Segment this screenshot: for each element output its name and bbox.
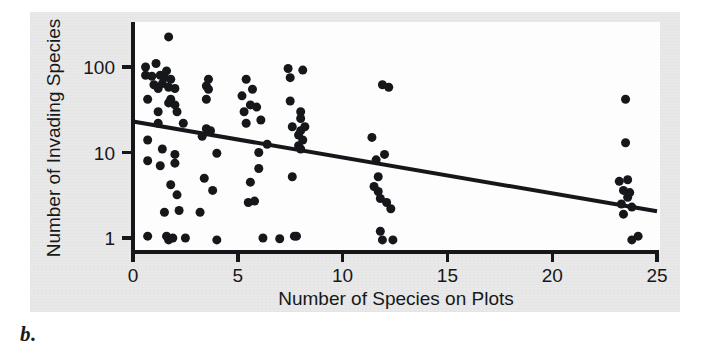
data-point bbox=[286, 97, 295, 106]
data-point bbox=[388, 235, 397, 244]
data-point bbox=[181, 234, 190, 243]
data-point bbox=[288, 172, 297, 181]
data-point bbox=[141, 63, 150, 72]
data-point bbox=[250, 197, 259, 206]
data-point bbox=[367, 133, 376, 142]
data-point bbox=[286, 73, 295, 82]
data-point bbox=[173, 190, 182, 199]
data-point bbox=[625, 188, 634, 197]
y-tick-label: 1 bbox=[104, 228, 115, 249]
data-point bbox=[143, 136, 152, 145]
y-axis-tick-labels: 110100 bbox=[83, 57, 115, 249]
data-point bbox=[296, 144, 305, 153]
figure-panel: 0510152025 110100 Number of Species on P… bbox=[0, 0, 707, 358]
data-point bbox=[204, 75, 213, 84]
data-point bbox=[179, 119, 188, 128]
data-point bbox=[254, 148, 263, 157]
panel-letter-label: b. bbox=[20, 322, 37, 347]
data-point bbox=[627, 203, 636, 212]
data-point bbox=[374, 172, 383, 181]
y-tick-label: 100 bbox=[83, 57, 115, 78]
data-point bbox=[246, 178, 255, 187]
data-point bbox=[170, 159, 179, 168]
data-point bbox=[162, 66, 171, 75]
data-point bbox=[154, 107, 163, 116]
data-point bbox=[376, 227, 385, 236]
data-point bbox=[386, 204, 395, 213]
data-point bbox=[166, 180, 175, 189]
data-point bbox=[384, 83, 393, 92]
data-point bbox=[300, 122, 309, 131]
x-axis-tick-labels: 0510152025 bbox=[128, 265, 668, 286]
data-point bbox=[252, 103, 261, 112]
data-point bbox=[288, 122, 297, 131]
data-point bbox=[380, 150, 389, 159]
data-point bbox=[623, 175, 632, 184]
data-point bbox=[240, 107, 249, 116]
data-point bbox=[196, 208, 205, 217]
data-point bbox=[170, 150, 179, 159]
data-point bbox=[160, 208, 169, 217]
data-point bbox=[263, 140, 272, 149]
axes-layer bbox=[122, 22, 659, 262]
data-point bbox=[202, 95, 211, 104]
data-points-layer bbox=[141, 32, 643, 244]
data-point bbox=[143, 232, 152, 241]
data-point bbox=[152, 59, 161, 68]
data-point bbox=[154, 119, 163, 128]
scatter-chart: 0510152025 110100 Number of Species on P… bbox=[0, 0, 707, 358]
x-tick-label: 0 bbox=[128, 265, 139, 286]
data-point bbox=[158, 144, 167, 153]
data-point bbox=[621, 138, 630, 147]
data-point bbox=[166, 75, 175, 84]
data-point bbox=[378, 235, 387, 244]
data-point bbox=[204, 85, 213, 94]
x-tick-label: 5 bbox=[233, 265, 244, 286]
data-point bbox=[298, 136, 307, 145]
y-tick-label: 10 bbox=[94, 143, 115, 164]
data-point bbox=[237, 91, 246, 100]
data-point bbox=[621, 95, 630, 104]
data-point bbox=[254, 164, 263, 173]
data-point bbox=[175, 206, 184, 215]
data-point bbox=[200, 174, 209, 183]
x-axis-title: Number of Species on Plots bbox=[278, 288, 514, 309]
data-point bbox=[634, 232, 643, 241]
data-point bbox=[275, 234, 284, 243]
data-point bbox=[619, 210, 628, 219]
x-tick-label: 25 bbox=[646, 265, 667, 286]
data-point bbox=[248, 85, 257, 94]
data-point bbox=[168, 234, 177, 243]
data-point bbox=[147, 72, 156, 81]
data-point bbox=[256, 115, 265, 124]
data-point bbox=[617, 199, 626, 208]
x-tick-label: 20 bbox=[542, 265, 563, 286]
data-point bbox=[206, 126, 215, 135]
x-tick-label: 15 bbox=[437, 265, 458, 286]
data-point bbox=[173, 107, 182, 116]
data-point bbox=[156, 161, 165, 170]
data-point bbox=[296, 114, 305, 123]
data-point bbox=[208, 186, 217, 195]
data-point bbox=[372, 155, 381, 164]
data-point bbox=[198, 132, 207, 141]
data-point bbox=[143, 95, 152, 104]
x-tick-label: 10 bbox=[332, 265, 353, 286]
data-point bbox=[212, 149, 221, 158]
data-point bbox=[292, 232, 301, 241]
data-point bbox=[242, 75, 251, 84]
data-point bbox=[143, 156, 152, 165]
data-point bbox=[242, 119, 251, 128]
y-axis-title: Number of Invading Species bbox=[43, 19, 64, 258]
data-point bbox=[170, 84, 179, 93]
data-point bbox=[212, 235, 221, 244]
data-point bbox=[164, 32, 173, 41]
data-point bbox=[298, 66, 307, 75]
data-point bbox=[615, 177, 624, 186]
data-point bbox=[284, 64, 293, 73]
data-point bbox=[258, 234, 267, 243]
